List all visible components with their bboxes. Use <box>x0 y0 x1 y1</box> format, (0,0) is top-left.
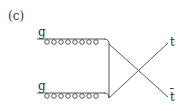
gluon-bottom-line <box>37 93 109 98</box>
gluon-top-line <box>37 39 109 44</box>
top-line <box>109 43 168 98</box>
feynman-diagram <box>0 0 183 111</box>
